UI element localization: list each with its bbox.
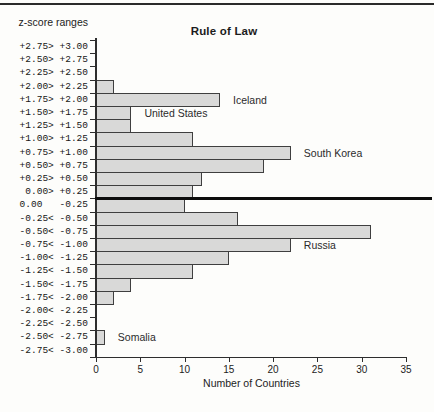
- y-tick-label: -1.25< -1.50: [0, 264, 88, 277]
- x-axis-tick: [317, 358, 318, 362]
- chart-title: Rule of Law: [96, 25, 352, 37]
- y-tick-label: 0.00> +0.25: [0, 185, 88, 198]
- x-tick-label: 10: [173, 364, 197, 375]
- y-tick-label: +1.00> +1.25: [0, 132, 88, 145]
- country-annotation: United States: [144, 106, 207, 119]
- y-tick-label: -2.25< -2.50: [0, 317, 88, 330]
- country-count-bar: [96, 159, 264, 173]
- country-count-bar: [96, 251, 229, 265]
- country-count-bar: [96, 330, 105, 344]
- y-tick-label: +2.75> +3.00: [0, 40, 88, 53]
- y-tick-label: -0.75< -1.00: [0, 238, 88, 251]
- country-count-bar: [96, 278, 131, 292]
- y-tick-label: +2.50> +2.75: [0, 53, 88, 66]
- x-axis-tick: [406, 358, 407, 362]
- x-tick-label: 20: [261, 364, 285, 375]
- country-count-bar: [96, 146, 291, 160]
- y-tick-label: +1.75> +2.00: [0, 93, 88, 106]
- country-count-bar: [96, 198, 185, 212]
- y-tick-label: -1.75< -2.00: [0, 291, 88, 304]
- zero-divider-line: [95, 197, 432, 200]
- x-axis-tick: [185, 358, 186, 362]
- y-tick-label: -0.25< -0.50: [0, 212, 88, 225]
- y-tick-label: +1.50> +1.75: [0, 106, 88, 119]
- country-count-bar: [96, 291, 114, 305]
- y-tick-label: -2.50< -2.75: [0, 330, 88, 343]
- x-axis-tick: [362, 358, 363, 362]
- x-axis-tick: [96, 358, 97, 362]
- x-tick-label: 30: [350, 364, 374, 375]
- y-tick-label: -1.00< -1.25: [0, 251, 88, 264]
- country-annotation: Somalia: [118, 330, 156, 343]
- x-tick-label: 25: [305, 364, 329, 375]
- country-count-bar: [96, 132, 193, 146]
- country-count-bar: [96, 106, 131, 120]
- x-tick-label: 5: [128, 364, 152, 375]
- y-tick-label: +2.00> +2.25: [0, 80, 88, 93]
- y-tick-label: +2.25> +2.50: [0, 66, 88, 79]
- x-tick-label: 35: [394, 364, 418, 375]
- country-count-bar: [96, 238, 291, 252]
- x-axis-line: [95, 357, 407, 359]
- x-axis-tick: [273, 358, 274, 362]
- y-tick-label: -2.75< -3.00: [0, 344, 88, 357]
- x-tick-label: 15: [217, 364, 241, 375]
- y-axis-header: z-score ranges: [0, 16, 88, 28]
- y-tick-label: +0.25> +0.50: [0, 172, 88, 185]
- x-axis-tick: [140, 358, 141, 362]
- top-rule-line: [0, 3, 434, 5]
- y-tick-label: +0.50> +0.75: [0, 159, 88, 172]
- y-tick-label: 0.00 -0.25: [0, 198, 88, 211]
- country-annotation: Iceland: [233, 93, 267, 106]
- figure-rule-of-law-chart: z-score ranges Rule of Law +2.75> +3.00+…: [0, 0, 434, 412]
- country-count-bar: [96, 225, 371, 239]
- x-tick-label: 0: [84, 364, 108, 375]
- y-tick-label: +1.25> +1.50: [0, 119, 88, 132]
- x-axis-title: Number of Countries: [96, 377, 407, 389]
- country-count-bar: [96, 212, 238, 226]
- country-count-bar: [96, 93, 220, 107]
- country-count-bar: [96, 80, 114, 94]
- country-annotation: Russia: [304, 238, 336, 251]
- y-tick-label: +0.75> +1.00: [0, 146, 88, 159]
- y-tick-label: -0.50< -0.75: [0, 225, 88, 238]
- country-count-bar: [96, 119, 131, 133]
- y-tick-label: -2.00< -2.25: [0, 304, 88, 317]
- country-count-bar: [96, 264, 193, 278]
- country-count-bar: [96, 172, 202, 186]
- country-annotation: South Korea: [304, 146, 362, 159]
- x-axis-tick: [229, 358, 230, 362]
- y-tick-label: -1.50< -1.75: [0, 278, 88, 291]
